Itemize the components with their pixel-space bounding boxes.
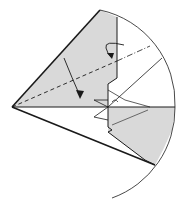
lower-colored-flap bbox=[108, 107, 175, 165]
small-flap-upper bbox=[108, 90, 150, 107]
small-flap-lower bbox=[94, 107, 108, 120]
mountain-fold-line bbox=[117, 46, 150, 61]
origami-diagram bbox=[0, 0, 181, 211]
